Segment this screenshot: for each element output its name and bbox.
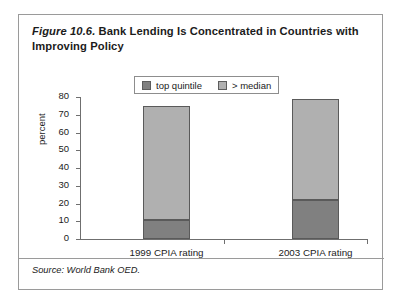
y-tick-80: 80 [76,97,80,98]
figure-frame: Figure 10.6. Bank Lending Is Concentrate… [18,14,383,290]
source-divider [19,258,384,259]
figure-number: Figure 10.6. [32,25,95,37]
y-tick-70: 70 [76,115,80,116]
plot-area: percent 0 10 20 30 40 50 60 70 80 [80,97,368,239]
chart-legend: top quintile > median [134,76,279,94]
y-tick-label-30: 30 [58,179,69,190]
y-tick-10: 10 [76,221,80,222]
figure-title: Figure 10.6. Bank Lending Is Concentrate… [32,24,366,53]
y-tick-20: 20 [76,204,80,205]
y-axis-line [80,97,81,239]
y-tick-label-10: 10 [58,214,69,225]
x-category-label-2003: 2003 CPIA rating [263,247,368,258]
legend-swatch-above-median [218,81,227,90]
source-note: Source: World Bank OED. [32,265,140,275]
bar-segment-top-quintile-2003 [292,200,339,239]
legend-entry-above-median: > median [218,80,271,91]
bar-segment-above-median-1999 [143,106,190,220]
y-axis-title: percent [36,113,47,145]
y-tick-30: 30 [76,186,80,187]
y-tick-label-40: 40 [58,161,69,172]
y-tick-50: 50 [76,150,80,151]
y-tick-label-70: 70 [58,108,69,119]
x-tick-end [367,239,368,244]
legend-swatch-top-quintile [142,81,151,90]
y-tick-label-20: 20 [58,197,69,208]
bar-group-1999 [143,106,190,239]
bar-segment-top-quintile-1999 [143,220,190,240]
y-tick-label-0: 0 [64,232,69,243]
y-tick-40: 40 [76,168,80,169]
legend-label-above-median: > median [232,80,271,91]
y-tick-60: 60 [76,133,80,134]
legend-entry-top-quintile: top quintile [142,80,202,91]
y-tick-label-80: 80 [58,90,69,101]
x-tick-midpoint [224,239,225,244]
bar-segment-above-median-2003 [292,99,339,200]
y-tick-0: 0 [76,239,80,240]
y-tick-label-60: 60 [58,126,69,137]
y-tick-label-50: 50 [58,143,69,154]
bar-group-2003 [292,99,339,239]
x-category-label-1999: 1999 CPIA rating [114,247,219,258]
legend-label-top-quintile: top quintile [156,80,202,91]
